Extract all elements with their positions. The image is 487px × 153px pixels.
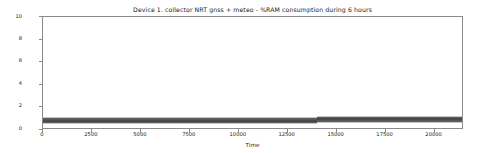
y-tick-label-8: 8	[0, 35, 22, 41]
x-tick-mark-2500	[91, 129, 92, 133]
y-tick-label-4: 4	[0, 80, 22, 86]
y-tick-label-2: 2	[0, 102, 22, 108]
x-tick-mark-12500	[287, 129, 288, 133]
x-tick-mark-7500	[189, 129, 190, 133]
x-tick-mark-17500	[385, 129, 386, 133]
y-tick-label-10: 10	[0, 13, 22, 19]
x-tick-mark-20000	[434, 129, 435, 133]
x-tick-mark-10000	[238, 129, 239, 133]
matplotlib-figure: Device 1. collector NRT gnss + meteo - %…	[0, 0, 487, 153]
y-tick-label-6: 6	[0, 57, 22, 63]
y-tick-label-0: 0	[0, 125, 22, 131]
plot-area	[42, 16, 463, 129]
x-tick-mark-5000	[140, 129, 141, 133]
x-tick-mark-15000	[336, 129, 337, 133]
chart-title: Device 1. collector NRT gnss + meteo - %…	[42, 5, 463, 14]
data-series-line-left	[43, 120, 317, 122]
x-axis-label: Time	[42, 142, 463, 148]
data-series-line-right	[317, 118, 463, 120]
x-tick-mark-0	[42, 129, 43, 133]
